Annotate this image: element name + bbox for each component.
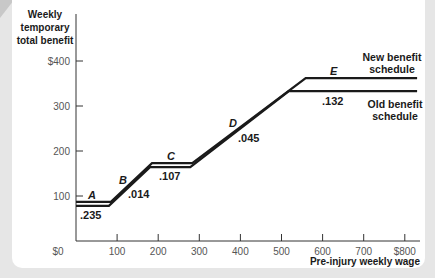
- x-tick-label: 200: [150, 246, 167, 257]
- elasticity-d: .045: [238, 132, 259, 144]
- y-axis-title-line-2: temporary: [21, 22, 70, 33]
- elasticity-a: .235: [80, 209, 101, 221]
- segment-label-b: B: [119, 174, 127, 186]
- segment-label-e: E: [330, 65, 338, 77]
- x-tick-label: $800: [394, 246, 417, 257]
- x-tick-label: 100: [109, 246, 126, 257]
- elasticity-e: .132: [322, 95, 343, 107]
- legend-new-line-2: schedule: [369, 63, 415, 75]
- axes: [76, 14, 420, 241]
- y-axis-title-line-3: total benefit: [17, 35, 74, 46]
- legend-new-line-1: New benefit: [363, 51, 422, 63]
- y-tick-label: $400: [48, 56, 71, 67]
- legend-old-line-1: Old benefit: [368, 98, 423, 110]
- x-tick-label: 500: [273, 246, 290, 257]
- x-origin-label: $0: [52, 246, 64, 257]
- chart: Weekly temporary total benefit Pre-injur…: [0, 0, 435, 278]
- x-tick-label: 300: [191, 246, 208, 257]
- segment-label-c: C: [167, 150, 176, 162]
- segment-label-a: A: [87, 189, 96, 201]
- x-tick-label: 400: [232, 246, 249, 257]
- y-tick-label: 300: [53, 101, 70, 112]
- x-axis-title: Pre-injury weekly wage: [310, 256, 420, 267]
- y-axis-title-line-1: Weekly: [28, 9, 63, 20]
- y-tick-label: 200: [53, 146, 70, 157]
- ticks: 100200300400500600700$800$0100200300$400: [48, 56, 417, 257]
- x-tick-label: 600: [314, 246, 331, 257]
- x-tick-label: 700: [355, 246, 372, 257]
- segment-label-d: D: [229, 117, 237, 129]
- elasticity-b: .014: [128, 188, 150, 200]
- y-tick-label: 100: [53, 191, 70, 202]
- legend-old-line-2: schedule: [372, 110, 418, 122]
- elasticity-c: .107: [159, 170, 180, 182]
